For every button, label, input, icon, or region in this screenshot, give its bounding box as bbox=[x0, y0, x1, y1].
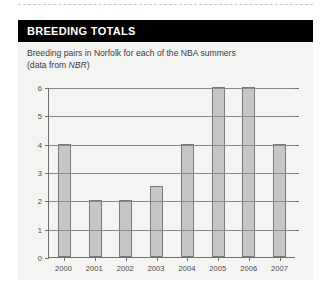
bar bbox=[181, 144, 194, 257]
x-axis-tick bbox=[157, 257, 158, 261]
panel-subtitle: Breeding pairs in Norfolk for each of th… bbox=[27, 47, 303, 71]
y-axis-label: 1 bbox=[38, 225, 42, 234]
gridline bbox=[49, 145, 295, 146]
x-axis-labels: 20002001200220032004200520062007 bbox=[48, 264, 295, 273]
x-axis-tick bbox=[249, 257, 250, 261]
gridline bbox=[49, 201, 295, 202]
y-axis-label: 2 bbox=[38, 197, 42, 206]
gridline bbox=[49, 116, 295, 117]
breeding-totals-panel: BREEDING TOTALS Breeding pairs in Norfol… bbox=[18, 20, 313, 280]
top-dashed-rule bbox=[18, 4, 313, 5]
y-axis-tick bbox=[45, 258, 49, 259]
x-axis-tick bbox=[95, 257, 96, 261]
x-axis-tick bbox=[218, 257, 219, 261]
subtitle-line-2-suffix: ) bbox=[87, 60, 90, 70]
y-axis-tick bbox=[45, 145, 49, 146]
y-axis-tick bbox=[45, 230, 49, 231]
y-axis-tick-right bbox=[295, 230, 299, 231]
y-axis-label: 4 bbox=[38, 140, 42, 149]
x-axis-label: 2004 bbox=[172, 264, 203, 273]
y-axis-tick bbox=[45, 201, 49, 202]
gridline bbox=[49, 173, 295, 174]
x-axis-label: 2003 bbox=[141, 264, 172, 273]
panel-header: BREEDING TOTALS bbox=[18, 20, 313, 42]
y-axis-tick-right bbox=[295, 201, 299, 202]
y-axis-tick-right bbox=[295, 116, 299, 117]
x-axis-label: 2001 bbox=[79, 264, 110, 273]
subtitle-source-abbreviation: NBR bbox=[69, 60, 87, 70]
x-axis-label: 2002 bbox=[110, 264, 141, 273]
y-axis-tick-right bbox=[295, 173, 299, 174]
x-axis-tick bbox=[187, 257, 188, 261]
y-axis-label: 5 bbox=[38, 112, 42, 121]
bar bbox=[150, 186, 163, 257]
x-axis-tick bbox=[64, 257, 65, 261]
y-axis-label: 0 bbox=[38, 254, 42, 263]
subtitle-line-2-prefix: (data from bbox=[27, 60, 69, 70]
page-title: BREEDING TOTALS bbox=[27, 25, 136, 37]
bar bbox=[58, 144, 71, 257]
plot-area: 0123456 bbox=[48, 88, 295, 258]
y-axis-tick bbox=[45, 173, 49, 174]
x-axis-label: 2007 bbox=[264, 264, 295, 273]
gridline bbox=[49, 230, 295, 231]
subtitle-line-1: Breeding pairs in Norfolk for each of th… bbox=[27, 48, 236, 58]
x-axis-label: 2000 bbox=[48, 264, 79, 273]
x-axis-tick bbox=[280, 257, 281, 261]
bar bbox=[273, 144, 286, 257]
y-axis-tick-right bbox=[295, 145, 299, 146]
y-axis-tick-right bbox=[295, 88, 299, 89]
bar bbox=[212, 87, 225, 257]
y-axis-tick bbox=[45, 88, 49, 89]
y-axis-label: 3 bbox=[38, 169, 42, 178]
y-axis-label: 6 bbox=[38, 84, 42, 93]
x-axis-label: 2006 bbox=[233, 264, 264, 273]
x-axis-label: 2005 bbox=[202, 264, 233, 273]
breeding-pairs-bar-chart: 0123456 20002001200220032004200520062007 bbox=[27, 82, 303, 274]
gridline bbox=[49, 88, 295, 89]
x-axis-tick bbox=[126, 257, 127, 261]
y-axis-tick bbox=[45, 116, 49, 117]
bar bbox=[242, 87, 255, 257]
